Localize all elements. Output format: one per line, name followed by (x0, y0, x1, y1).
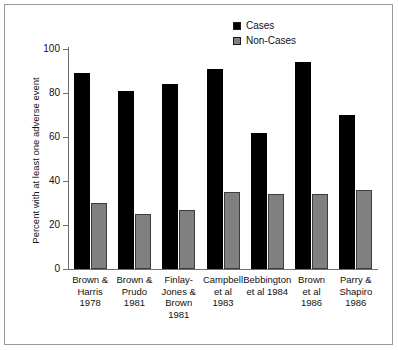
bar-cases (295, 62, 311, 269)
x-category-label: Finlay-Jones &Brown1981 (155, 274, 203, 320)
legend-item-non-cases: Non-Cases (233, 34, 353, 47)
bar-non-cases (91, 203, 107, 269)
bar-cases (74, 73, 90, 269)
x-category-line: Finlay- (155, 274, 203, 286)
bar-cases (118, 91, 134, 269)
x-category-label: Brown &Prudo1981 (110, 274, 158, 309)
x-category-line: Brown & (66, 274, 114, 286)
y-tick-mark (63, 181, 69, 182)
x-category-line: et al (199, 286, 247, 298)
x-axis-line (68, 269, 378, 270)
legend-item-cases: Cases (233, 19, 353, 32)
x-category-line: et al (287, 286, 335, 298)
bar-cases (162, 84, 178, 269)
y-axis-label: Percent with at least one adverse event (30, 56, 41, 266)
y-tick-label: 0 (5, 264, 60, 274)
chart-plot-area: CasesNon-Cases Percent with at least one… (5, 5, 394, 346)
y-axis-line (68, 47, 69, 270)
bar-cases (339, 115, 355, 269)
y-tick-mark (63, 49, 69, 50)
x-category-line: 1986 (287, 297, 335, 309)
x-category-label: Brownet al1986 (287, 274, 335, 309)
y-tick-label-text: 40 (10, 176, 60, 186)
bar-non-cases (268, 194, 284, 269)
bar-non-cases (135, 214, 151, 269)
bar-non-cases (179, 210, 195, 269)
x-category-line: 1986 (332, 297, 380, 309)
x-category-line: 1981 (110, 297, 158, 309)
legend-label: Non-Cases (246, 35, 296, 46)
x-category-line: Shapiro (332, 286, 380, 298)
y-tick-label-text: 60 (10, 132, 60, 142)
x-category-label: Campbellet al1983 (199, 274, 247, 309)
legend-label: Cases (246, 20, 274, 31)
x-category-line: Brown & (110, 274, 158, 286)
x-category-label: Bebbingtonet al 1984 (243, 274, 291, 297)
bar-cases (251, 133, 267, 269)
y-tick-label: 20 (5, 220, 60, 230)
x-category-line: Prudo (110, 286, 158, 298)
y-tick-mark (63, 137, 69, 138)
x-category-label: Brown &Harris1978 (66, 274, 114, 309)
y-tick-label-text: 80 (10, 88, 60, 98)
bar-cases (207, 69, 223, 269)
chart-legend: CasesNon-Cases (233, 19, 353, 49)
y-tick-label: 100 (5, 44, 60, 54)
x-category-line: Brown (287, 274, 335, 286)
y-tick-mark (63, 93, 69, 94)
x-category-line: Bebbington (243, 274, 291, 286)
x-category-line: Campbell (199, 274, 247, 286)
y-tick-mark (63, 269, 69, 270)
y-tick-mark (63, 225, 69, 226)
x-category-line: Brown (155, 297, 203, 309)
y-tick-label-text: 20 (10, 220, 60, 230)
y-tick-label: 40 (5, 176, 60, 186)
x-category-label: Parry &Shapiro1986 (332, 274, 380, 309)
legend-swatch-icon (233, 37, 241, 45)
figure-frame: CasesNon-Cases Percent with at least one… (4, 4, 393, 345)
x-category-line: 1983 (199, 297, 247, 309)
bar-non-cases (312, 194, 328, 269)
y-tick-label: 60 (5, 132, 60, 142)
bar-non-cases (224, 192, 240, 269)
x-category-line: Jones & (155, 286, 203, 298)
y-tick-label-text: 100 (10, 44, 60, 54)
x-category-line: 1978 (66, 297, 114, 309)
x-category-line: Parry & (332, 274, 380, 286)
x-category-line: Harris (66, 286, 114, 298)
legend-swatch-icon (233, 22, 241, 30)
y-tick-label: 80 (5, 88, 60, 98)
x-category-line: 1981 (155, 309, 203, 321)
x-category-line: et al 1984 (243, 286, 291, 298)
bar-non-cases (356, 190, 372, 269)
y-tick-label-text: 0 (10, 264, 60, 274)
